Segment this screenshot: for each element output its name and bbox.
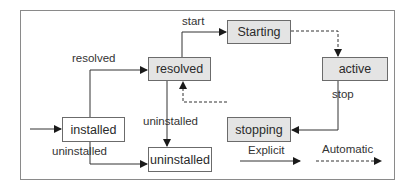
- node-stopping-label: stopping: [235, 123, 282, 137]
- node-stopping: stopping: [227, 117, 291, 142]
- edge-installed-resolved: [90, 70, 147, 117]
- edge-starting-active: [291, 31, 338, 56]
- node-uninstalled: uninstalled: [148, 147, 212, 172]
- node-uninstalled-label: uninstalled: [150, 153, 210, 167]
- node-starting: Starting: [227, 20, 291, 44]
- edge-label-stop: stop: [332, 88, 354, 100]
- node-installed: installed: [62, 117, 125, 142]
- node-resolved: resolved: [148, 57, 211, 81]
- edge-label-start: start: [182, 15, 204, 27]
- node-active: active: [322, 57, 388, 81]
- legend-automatic-label: Automatic: [322, 143, 373, 155]
- legend-explicit-label: Explicit: [248, 144, 284, 156]
- edge-resolved-starting: [182, 32, 226, 57]
- edge-label-uninstalled-installed: uninstalled: [52, 145, 107, 157]
- node-installed-label: installed: [71, 123, 117, 137]
- node-resolved-label: resolved: [156, 62, 203, 76]
- node-active-label: active: [339, 62, 372, 76]
- edge-label-resolved: resolved: [72, 52, 115, 64]
- edge-label-uninstalled-resolved: uninstalled: [143, 115, 198, 127]
- edge-stopping-resolved: [183, 82, 227, 102]
- node-starting-label: Starting: [237, 25, 280, 39]
